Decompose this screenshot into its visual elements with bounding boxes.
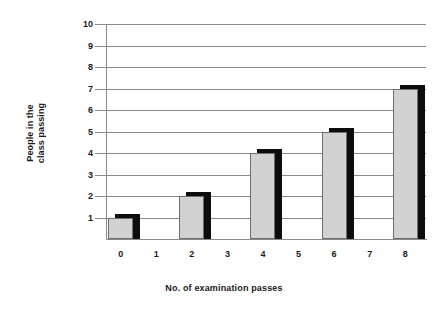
y-axis-title-line-1: People in the (25, 104, 36, 161)
y-axis-line (106, 24, 107, 240)
y-tick-mark-5 (95, 132, 106, 133)
plot-area (106, 24, 426, 239)
y-tick-mark-9 (95, 46, 106, 47)
y-tick-label-2: 2 (69, 192, 93, 201)
y-tick-label-10: 10 (69, 20, 93, 29)
y-tick-label-8: 8 (69, 63, 93, 72)
y-tick-mark-10 (95, 24, 106, 25)
y-axis-title: People in the class passing (14, 78, 58, 188)
x-tick-label-6: 6 (319, 249, 349, 259)
x-tick-label-4: 4 (248, 249, 278, 259)
x-axis-line (106, 239, 427, 240)
bar-slot-2 (177, 24, 213, 239)
bar-slot-6 (319, 24, 355, 239)
x-tick-label-2: 2 (177, 249, 207, 259)
bar-0 (108, 218, 133, 240)
bar-slot-7 (355, 24, 391, 239)
x-tick-label-0: 0 (106, 249, 136, 259)
bar-slot-1 (142, 24, 178, 239)
y-tick-mark-2 (95, 196, 106, 197)
x-tick-label-3: 3 (212, 249, 242, 259)
x-tick-label-5: 5 (284, 249, 314, 259)
x-tick-label-1: 1 (141, 249, 171, 259)
bar-slot-3 (213, 24, 249, 239)
bar-chart: People in the class passing 12345678910 … (0, 0, 448, 310)
y-tick-label-6: 6 (69, 106, 93, 115)
bar-slot-4 (248, 24, 284, 239)
y-tick-label-5: 5 (69, 128, 93, 137)
y-tick-label-7: 7 (69, 85, 93, 94)
y-tick-mark-6 (95, 110, 106, 111)
bar-slot-5 (284, 24, 320, 239)
x-tick-label-8: 8 (390, 249, 420, 259)
y-tick-mark-1 (95, 218, 106, 219)
y-tick-mark-4 (95, 153, 106, 154)
bar-slot-8 (390, 24, 426, 239)
y-tick-mark-3 (95, 175, 106, 176)
y-axis-title-line-2: class passing (36, 103, 47, 163)
y-tick-label-3: 3 (69, 171, 93, 180)
y-tick-label-4: 4 (69, 149, 93, 158)
y-tick-label-1: 1 (69, 214, 93, 223)
y-tick-label-9: 9 (69, 42, 93, 51)
bar-slot-0 (106, 24, 142, 239)
y-tick-mark-8 (95, 67, 106, 68)
x-axis-title: No. of examination passes (0, 283, 448, 293)
y-tick-mark-7 (95, 89, 106, 90)
x-tick-label-7: 7 (355, 249, 385, 259)
